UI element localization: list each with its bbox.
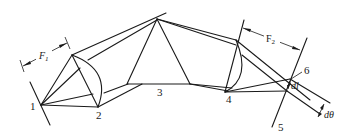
label-2: 2	[96, 109, 102, 121]
dtheta-indicator: dθ	[318, 104, 334, 120]
prism-3	[127, 19, 190, 84]
rays-lens4-to-focal-plane	[225, 40, 330, 114]
label-6: 6	[304, 64, 310, 76]
collimated-beam	[72, 13, 166, 107]
dl-label: dl	[291, 80, 299, 91]
dtheta-label: dθ	[324, 109, 334, 120]
dispersed-beam	[157, 19, 236, 91]
rays-source-to-lens1	[41, 55, 98, 107]
label-5: 5	[278, 121, 284, 133]
label-4: 4	[226, 93, 232, 105]
optical-diagram: F1	[0, 0, 347, 137]
dl-indicator: dl	[287, 80, 299, 91]
f1-dimension: F1	[20, 37, 70, 72]
lens-2	[72, 55, 102, 107]
label-1: 1	[30, 100, 36, 112]
f2-dimension: F2	[243, 28, 300, 50]
lens-4	[225, 20, 244, 92]
label-3: 3	[157, 86, 163, 98]
